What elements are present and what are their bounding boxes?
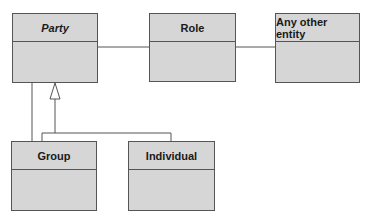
class-name: Group xyxy=(12,142,96,170)
class-name: Individual xyxy=(129,142,214,170)
class-role: Role xyxy=(149,13,236,82)
class-name: Party xyxy=(13,14,97,42)
class-any-other-entity: Any other entity xyxy=(275,13,360,83)
class-individual: Individual xyxy=(128,141,215,211)
generalization-arrowhead xyxy=(50,83,60,99)
class-name: Role xyxy=(150,14,235,42)
class-party: Party xyxy=(12,13,98,83)
class-group: Group xyxy=(11,141,97,211)
class-name: Any other entity xyxy=(276,14,359,42)
